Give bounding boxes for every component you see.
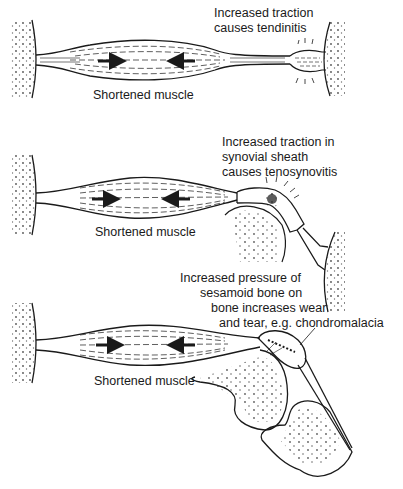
left-bone-icon — [12, 303, 36, 383]
annotation-line: causes tenosynovitis — [222, 165, 337, 180]
annotation-tendinitis: Increased traction causes tendinitis — [214, 6, 313, 36]
muscle-belly-icon — [36, 177, 237, 218]
annotation-line: and tear, e.g. chondromalacia — [178, 316, 403, 331]
muscle-label: Shortened muscle — [95, 225, 196, 240]
diagram-illustration — [0, 0, 403, 489]
muscle-belly-icon — [36, 325, 260, 365]
annotation-tenosynovitis: Increased traction in synovial sheath ca… — [222, 135, 337, 180]
annotation-chondromalacia: Increased pressure of sesamoid bone on b… — [178, 271, 403, 331]
annotation-line: causes tendinitis — [214, 21, 313, 36]
annotation-line: bone increases wear — [178, 301, 403, 316]
annotation-line: sesamoid bone on — [178, 286, 403, 301]
inflamed-tendon-icon — [290, 38, 326, 84]
left-bone-icon — [12, 155, 36, 235]
right-bone-icon — [324, 22, 345, 96]
annotation-line: Increased traction — [214, 6, 313, 21]
muscle-label: Shortened muscle — [93, 88, 194, 103]
diagram-canvas: Increased traction causes tendinitis Sho… — [0, 0, 403, 489]
annotation-line: Increased pressure of — [178, 271, 403, 286]
annotation-line: Increased traction in — [222, 135, 337, 150]
muscle-label: Shortened muscle — [94, 374, 195, 389]
bone-curve-icon — [225, 206, 285, 262]
left-bone-icon — [10, 20, 36, 98]
annotation-line: synovial sheath — [222, 150, 337, 165]
femur-icon — [192, 342, 288, 430]
muscle-belly-icon — [36, 40, 290, 80]
